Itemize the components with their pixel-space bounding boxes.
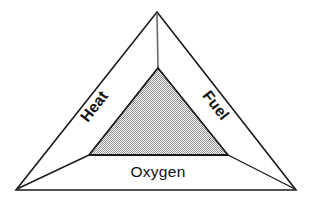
fire-triangle-diagram: Heat Fuel Oxygen <box>0 0 318 204</box>
label-oxygen: Oxygen <box>130 163 185 180</box>
fire-triangle-canvas: Heat Fuel Oxygen <box>0 0 318 204</box>
connector-line-top <box>157 13 158 68</box>
